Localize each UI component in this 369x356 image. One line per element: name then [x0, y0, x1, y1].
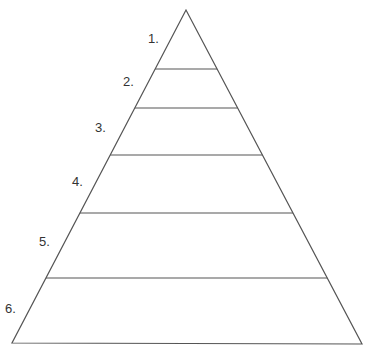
pyramid-diagram: [0, 0, 369, 356]
level-2-label: 2.: [123, 75, 134, 88]
level-6-label: 6.: [5, 302, 16, 315]
pyramid-outline: [12, 10, 362, 344]
level-3-label: 3.: [95, 121, 106, 134]
level-4-label: 4.: [72, 175, 83, 188]
level-1-label: 1.: [148, 32, 159, 45]
level-5-label: 5.: [39, 235, 50, 248]
